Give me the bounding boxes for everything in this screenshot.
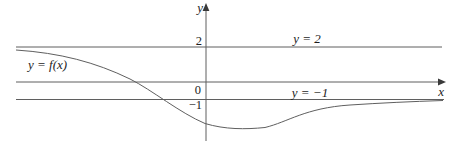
y-axis-arrow-icon	[203, 3, 210, 11]
tick-label-0: 0	[195, 83, 201, 97]
tick-label-2: 2	[196, 34, 202, 48]
curve-label: y = f(x)	[26, 57, 67, 72]
y-axis-label: y	[195, 0, 203, 15]
graph-canvas: y x 2 0 −1 y = 2 y = −1 y = f(x)	[0, 0, 462, 146]
asymptote-label-y2: y = 2	[291, 31, 321, 46]
asymptote-label-yneg1: y = −1	[290, 85, 328, 100]
function-curve	[16, 50, 443, 129]
tick-label-neg1: −1	[189, 98, 202, 112]
function-graph-figure: y x 2 0 −1 y = 2 y = −1 y = f(x)	[0, 0, 462, 146]
x-axis-label: x	[437, 84, 444, 99]
